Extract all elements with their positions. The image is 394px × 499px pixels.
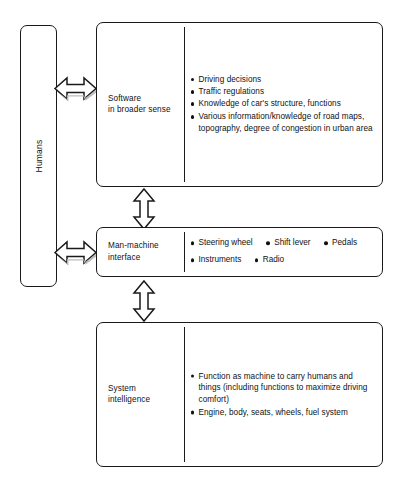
list-item: Various information/knowledge of road ma…	[190, 111, 376, 135]
list-item: Knowledge of car's structure, functions	[190, 99, 376, 111]
list-item: Radio	[254, 255, 284, 267]
arrow-humans-software-icon	[52, 74, 99, 103]
panel-divider	[184, 327, 185, 462]
panel-divider	[184, 232, 185, 272]
list-item: Pedals	[324, 237, 358, 249]
panel-interface-bullet-row-2: InstrumentsRadio	[190, 255, 376, 267]
panel-software-title: Software in broader sense	[108, 93, 182, 116]
panel-system-body: Function as machine to carry humans and …	[190, 370, 376, 419]
arrow-software-interface-icon	[131, 187, 157, 231]
list-item: Driving decisions	[190, 74, 376, 86]
panel-software-body: Driving decisions Traffic regulations Kn…	[190, 74, 376, 136]
list-item: Traffic regulations	[190, 86, 376, 98]
list-item: Function as machine to carry humans and …	[190, 370, 376, 406]
panel-system-title-line-1: System	[108, 383, 182, 395]
panel-software: Software in broader sense Driving decisi…	[96, 22, 383, 187]
panel-system-title: System intelligence	[108, 383, 182, 406]
panel-system: System intelligence Function as machine …	[96, 322, 383, 467]
list-item: Engine, body, seats, wheels, fuel system	[190, 406, 376, 418]
panel-divider	[184, 27, 185, 182]
list-item: Shift lever	[266, 237, 311, 249]
panel-software-title-line-2: in broader sense	[108, 105, 182, 117]
arrow-interface-system-icon	[131, 279, 157, 323]
panel-system-title-line-2: intelligence	[108, 395, 182, 407]
panel-interface-bullet-row-1: Steering wheelShift leverPedals	[190, 237, 376, 249]
panel-interface: Man-machine interface Steering wheelShif…	[96, 227, 383, 277]
panel-interface-title-line-2: interface	[108, 252, 182, 264]
humans-label: Humans	[34, 140, 43, 173]
panel-interface-title-line-1: Man-machine	[108, 240, 182, 252]
system-hierarchy-diagram: Humans Software in broader sense Driving…	[0, 0, 394, 499]
panel-software-bullet-list: Driving decisions Traffic regulations Kn…	[190, 74, 376, 135]
panel-interface-body: Steering wheelShift leverPedals Instrume…	[190, 237, 376, 267]
list-item: Steering wheel	[190, 237, 253, 249]
panel-system-bullet-list: Function as machine to carry humans and …	[190, 370, 376, 418]
list-item: Instruments	[190, 255, 241, 267]
panel-software-title-line-1: Software	[108, 93, 182, 105]
panel-interface-title: Man-machine interface	[108, 240, 182, 263]
arrow-humans-interface-icon	[52, 238, 99, 267]
